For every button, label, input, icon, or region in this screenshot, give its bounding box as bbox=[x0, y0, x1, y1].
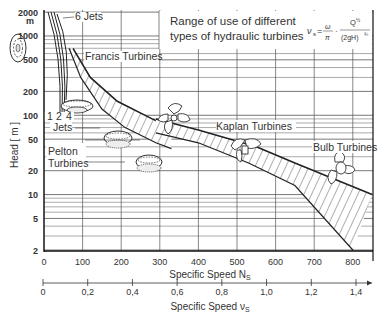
x-tick-label: 500 bbox=[229, 257, 244, 267]
svg-text:·: · bbox=[335, 27, 338, 36]
svg-text:ω: ω bbox=[325, 23, 331, 30]
turbine-range-chart: Range of use of differenttypes of hydrau… bbox=[0, 0, 381, 321]
chart-title-line2: types of hydraulic turbines bbox=[170, 30, 304, 42]
svg-text:s: s bbox=[313, 31, 316, 37]
x2-tick-label: 1,2 bbox=[305, 287, 318, 297]
kaplan-label: Kaplan Turbines bbox=[216, 120, 292, 132]
svg-text:π: π bbox=[325, 34, 330, 41]
y-tick-label: 500 bbox=[23, 55, 38, 65]
x2-tick-label: 1,4 bbox=[350, 287, 363, 297]
x2-tick-label: 0,6 bbox=[171, 287, 184, 297]
kaplan-band-hatch bbox=[156, 119, 372, 250]
y-tick-label: 100 bbox=[23, 111, 38, 121]
six-jets-label: 6 Jets bbox=[75, 10, 103, 22]
y-tick-label: 50 bbox=[28, 135, 38, 145]
pelton-label-line1: Pelton bbox=[48, 145, 78, 157]
x2-axis-label: Specific Speed νS bbox=[170, 301, 250, 313]
axis-arrow-icon bbox=[367, 281, 372, 286]
x-tick-label: 800 bbox=[345, 257, 360, 267]
x2-tick-label: 0,4 bbox=[126, 287, 139, 297]
francis-runner-icon-2 bbox=[104, 131, 132, 148]
x2-tick-label: 0,8 bbox=[216, 287, 229, 297]
x2-tick-label: 0 bbox=[40, 287, 45, 297]
x-tick-label: 400 bbox=[191, 257, 206, 267]
x-axis-label: Specific Speed NS bbox=[169, 269, 251, 281]
pelton-label-line2: Turbines bbox=[48, 157, 88, 169]
bulb-label: Bulb Turbines bbox=[313, 141, 377, 153]
y-tick-label: 10 bbox=[28, 190, 38, 200]
y-tick-label: 1000 bbox=[18, 31, 38, 41]
x-tick-label: 200 bbox=[114, 257, 129, 267]
svg-text:=: = bbox=[317, 26, 322, 36]
y-tick-label: 2 bbox=[33, 246, 38, 256]
y-axis-label: Head [ m ] bbox=[9, 122, 20, 168]
x-tick-label: 700 bbox=[307, 257, 322, 267]
x-tick-label: 100 bbox=[75, 257, 90, 267]
francis-runner-icon-3 bbox=[136, 155, 162, 172]
y-tick-label: 20 bbox=[28, 166, 38, 176]
jets-label: Jets bbox=[53, 121, 72, 133]
y-unit-label: m bbox=[26, 16, 34, 26]
x-tick-label: 0 bbox=[41, 257, 46, 267]
x-tick-label: 600 bbox=[268, 257, 283, 267]
svg-text:ν: ν bbox=[307, 26, 312, 36]
y-tick-label: 5 bbox=[33, 214, 38, 224]
x2-tick-label: 1,0 bbox=[260, 287, 273, 297]
svg-text:(2gH): (2gH) bbox=[341, 34, 359, 42]
chart-title-line1: Range of use of different bbox=[170, 15, 297, 27]
francis-label: Francis Turbines bbox=[85, 50, 163, 62]
x2-tick-label: 0,2 bbox=[81, 287, 94, 297]
x-tick-label: 300 bbox=[152, 257, 167, 267]
y-tick-label: 200 bbox=[23, 87, 38, 97]
